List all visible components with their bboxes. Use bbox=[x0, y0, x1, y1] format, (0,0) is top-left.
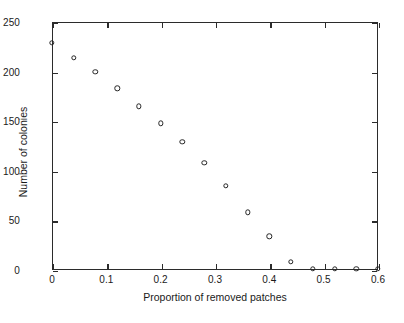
y-axis-title: Number of colonies bbox=[17, 82, 29, 222]
plot-area bbox=[52, 22, 378, 270]
y-tick-label: 150 bbox=[3, 116, 20, 127]
y-tick-label: 50 bbox=[9, 215, 20, 226]
y-tick-mark bbox=[53, 23, 58, 24]
data-point-marker bbox=[375, 266, 380, 271]
y-tick-mark-right bbox=[372, 122, 377, 123]
x-tick-mark-top bbox=[325, 23, 326, 28]
x-tick-mark bbox=[162, 264, 163, 269]
y-tick-mark bbox=[53, 221, 58, 222]
x-tick-label: 0.5 bbox=[317, 274, 331, 285]
y-tick-mark-right bbox=[372, 172, 377, 173]
y-tick-label: 200 bbox=[3, 66, 20, 77]
x-tick-label: 0.1 bbox=[99, 274, 113, 285]
x-tick-mark bbox=[53, 264, 54, 269]
x-tick-label: 0.2 bbox=[154, 274, 168, 285]
x-tick-mark-top bbox=[379, 23, 380, 28]
x-tick-mark bbox=[325, 264, 326, 269]
x-axis-title: Proportion of removed patches bbox=[52, 291, 378, 303]
x-tick-label: 0 bbox=[49, 274, 55, 285]
x-tick-mark bbox=[216, 264, 217, 269]
x-tick-mark-top bbox=[162, 23, 163, 28]
x-tick-mark-top bbox=[107, 23, 108, 28]
data-point-marker bbox=[332, 266, 337, 271]
y-tick-mark-right bbox=[372, 221, 377, 222]
x-tick-label: 0.4 bbox=[262, 274, 276, 285]
data-point-marker bbox=[310, 266, 315, 271]
y-tick-label: 0 bbox=[14, 265, 20, 276]
y-tick-mark bbox=[53, 73, 58, 74]
x-tick-label: 0.3 bbox=[208, 274, 222, 285]
y-tick-mark-right bbox=[372, 73, 377, 74]
x-tick-mark-top bbox=[270, 23, 271, 28]
y-tick-mark bbox=[53, 172, 58, 173]
data-point-marker bbox=[354, 266, 359, 271]
x-tick-mark bbox=[107, 264, 108, 269]
y-tick-mark-right bbox=[372, 23, 377, 24]
x-tick-mark bbox=[270, 264, 271, 269]
x-tick-mark-top bbox=[216, 23, 217, 28]
x-tick-label: 0.6 bbox=[371, 274, 385, 285]
scatter-plot-figure: Proportion of removed patches Number of … bbox=[0, 0, 404, 323]
y-tick-mark bbox=[53, 122, 58, 123]
y-tick-mark bbox=[53, 271, 58, 272]
y-tick-label: 250 bbox=[3, 17, 20, 28]
y-tick-label: 100 bbox=[3, 165, 20, 176]
